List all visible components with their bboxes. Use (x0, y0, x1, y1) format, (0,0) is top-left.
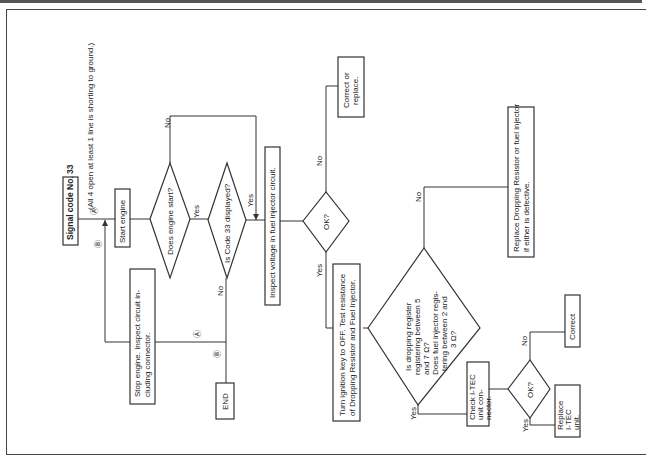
is-code-33-label: Is Code 33 displayed? (223, 183, 232, 263)
marker-a: Ⓐ (90, 207, 99, 215)
stop-engine-label-2: cluding connector. (143, 333, 152, 398)
replace-itec-label-3: unit. (572, 415, 581, 430)
dropping-q-1: Is dropping register (404, 302, 413, 371)
turn-ignition-label-2: of Dropping Resistor and Fuel Injector. (348, 279, 357, 416)
no-label-5: No (520, 335, 529, 346)
dropping-q-5: tering between 2 and (440, 296, 449, 371)
ok1-label: OK? (322, 213, 331, 230)
yes-label-2: Yes (246, 194, 255, 207)
ok2-label: OK? (526, 381, 535, 398)
replace-dropping-label-1: Replace Dropping Resistor or fuel inject… (512, 104, 521, 252)
yes-label-4: Yes (409, 407, 418, 420)
check-itec-label-3: nector. (484, 396, 493, 420)
inspect-voltage-label: Inspect voltage in fuel injector circuit… (268, 167, 277, 298)
no-label-4: No (414, 191, 423, 202)
marker-b: Ⓑ (94, 240, 103, 248)
dropping-q-2: registering between 5 (413, 298, 422, 375)
end-label: END (221, 393, 230, 410)
dropping-q-6: 3 Ω? (449, 330, 458, 348)
yes-label-1: Yes (192, 205, 201, 218)
dropping-q-3: and 7 Ω? (422, 342, 431, 375)
marker-a-2: Ⓐ (193, 330, 202, 338)
no-label-2: No (216, 285, 225, 296)
does-engine-start-label: Does engine start? (166, 187, 175, 255)
no-label-3: No (315, 155, 324, 166)
subtitle: (All 4 open at least 1 line is shorting … (86, 42, 95, 210)
correct-label: Correct (568, 313, 577, 340)
turn-ignition-label-1: Turn ignition key to OFF. Test resistanc… (338, 273, 347, 416)
no-label-1: No (163, 117, 172, 128)
yes-label-5: Yes (521, 419, 530, 432)
title: Signal code No. 33 (65, 164, 75, 240)
dropping-q-4: Does fuel injector regis- (431, 291, 440, 375)
stop-engine-label-1: Stop engine. Inspect circuit in- (133, 289, 142, 397)
yes-label-3: Yes (315, 264, 324, 277)
replace-dropping-label-2: if either is defective. (522, 181, 531, 252)
correct-or-replace-label-2: replace. (351, 77, 360, 105)
dropping-resistor-diamond (368, 248, 480, 405)
marker-b-2: Ⓑ (213, 350, 222, 358)
correct-or-replace-label-1: Correct or (342, 72, 351, 108)
start-engine-label: Start engine (118, 199, 127, 243)
